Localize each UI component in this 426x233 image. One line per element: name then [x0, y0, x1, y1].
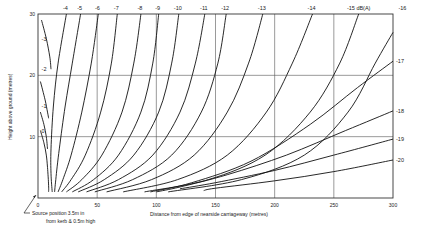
contour-label: -12 [221, 5, 229, 11]
source-annotation-line1: Source position 3.5m in [32, 210, 84, 216]
contour-line [51, 14, 67, 192]
y-axis-label: Height above ground (metres) [7, 73, 13, 140]
x-tick-label: 300 [389, 202, 398, 208]
y-axis-ticks: 102030 [29, 11, 35, 140]
x-tick-label: 0 [37, 202, 40, 208]
x-tick-label: 200 [270, 202, 279, 208]
contour-label: -15 dB(A) [347, 5, 371, 11]
contour-label: -18 [396, 108, 404, 114]
contour-label: -19 [396, 136, 404, 142]
x-axis-ticks: 050100150200250300 [37, 202, 398, 208]
contour-label: -9 [155, 5, 160, 11]
contour-line [87, 14, 205, 192]
contour-label: 0 [42, 128, 45, 134]
contour-label: -3 [42, 36, 47, 42]
contour-label: -20 [396, 157, 404, 163]
contour-line [78, 14, 179, 192]
source-annotation: Source position 3.5m in from kerb & 0.5m… [24, 195, 95, 224]
arrowhead-icon [33, 195, 36, 198]
x-tick-label: 100 [152, 202, 161, 208]
contour-label: -5 [77, 5, 82, 11]
contour-line [150, 61, 393, 192]
contour-label: -14 [308, 5, 316, 11]
contour-label: -13 [258, 5, 266, 11]
contour-label: -1 [42, 103, 47, 109]
y-tick-label: 20 [29, 72, 35, 78]
contour-line [40, 82, 48, 119]
x-tick-label: 150 [211, 202, 220, 208]
contour-label: -17 [396, 58, 404, 64]
contour-line [40, 131, 48, 192]
contour-lines [40, 14, 393, 192]
noise-contour-chart: -3-2-10-4-5-6-7-8-9-10-11-12-13-14-15 dB… [0, 0, 426, 233]
contour-line [72, 14, 158, 192]
contour-line [168, 32, 393, 192]
contour-line [145, 14, 359, 192]
contour-line [66, 14, 140, 192]
contour-line [58, 14, 98, 192]
contour-label: -7 [114, 5, 119, 11]
x-tick-label: 50 [94, 202, 100, 208]
contour-label: -10 [174, 5, 182, 11]
contour-label: -6 [95, 5, 100, 11]
contour-label: -16 [398, 5, 406, 11]
contour-line [107, 14, 263, 192]
contour-line [42, 20, 52, 69]
contour-label: -8 [138, 5, 143, 11]
source-annotation-line2: from kerb & 0.5m high [46, 218, 95, 224]
contour-label: -11 [200, 5, 208, 11]
contour-label: -2 [42, 66, 47, 72]
x-tick-label: 250 [330, 202, 339, 208]
contour-line [62, 14, 118, 192]
y-tick-label: 30 [29, 11, 35, 17]
y-tick-label: 10 [29, 134, 35, 140]
contour-label: -4 [63, 5, 68, 11]
x-axis-label: Distance from edge of nearside carriagew… [150, 211, 268, 217]
